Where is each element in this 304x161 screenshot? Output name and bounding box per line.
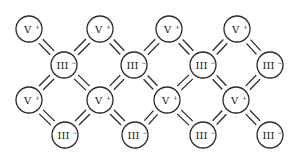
- atom-symbol: III: [263, 130, 275, 141]
- atom-symbol: III: [196, 130, 208, 141]
- atom-cation: V+: [224, 16, 250, 42]
- atom-charge: +: [35, 23, 40, 30]
- atom-symbol: III: [57, 60, 69, 71]
- double-bond: [179, 39, 194, 54]
- atom-symbol: V: [94, 24, 103, 35]
- atom-charge: +: [242, 94, 247, 101]
- atom-charge: +: [175, 23, 180, 30]
- bonds-layer: [39, 39, 261, 125]
- atom-anion: III−: [257, 52, 283, 78]
- atom-charge: +: [106, 23, 111, 30]
- atom-charge: +: [243, 23, 248, 30]
- atom-charge: +: [106, 94, 111, 101]
- atom-symbol: V: [94, 95, 103, 106]
- double-bond: [110, 39, 125, 54]
- atom-charge: −: [143, 129, 148, 136]
- double-bond: [144, 39, 159, 55]
- double-bond: [75, 110, 90, 125]
- crystal-lattice-diagram: V+V+V+V+III−III−III−III−V+V+V+V+III−III−…: [0, 0, 304, 161]
- atom-anion: III−: [121, 52, 147, 78]
- double-bond: [177, 75, 193, 90]
- atoms-layer: V+V+V+V+III−III−III−III−V+V+V+V+III−III−…: [16, 16, 283, 148]
- bond-line: [213, 79, 223, 89]
- atom-anion: III−: [257, 122, 283, 148]
- atom-charge: −: [278, 129, 283, 136]
- atom-symbol: III: [263, 60, 275, 71]
- double-bond: [213, 110, 227, 124]
- double-bond: [74, 75, 90, 90]
- atom-charge: −: [73, 129, 78, 136]
- atom-cation: V+: [16, 16, 42, 42]
- double-bond: [246, 110, 260, 125]
- double-bond: [144, 75, 158, 89]
- atom-cation: V+: [154, 87, 180, 113]
- atom-anion: III−: [52, 122, 78, 148]
- atom-symbol: III: [58, 130, 70, 141]
- double-bond: [39, 75, 54, 90]
- atom-symbol: V: [231, 24, 240, 35]
- atom-cation: V+: [156, 16, 182, 42]
- atom-charge: −: [278, 59, 283, 66]
- double-bond: [110, 75, 124, 90]
- atom-anion: III−: [122, 122, 148, 148]
- atom-symbol: V: [163, 24, 172, 35]
- atom-symbol: III: [128, 130, 140, 141]
- atom-symbol: V: [23, 95, 32, 106]
- atom-anion: III−: [51, 52, 77, 78]
- atom-symbol: V: [23, 24, 32, 35]
- double-bond: [246, 75, 260, 90]
- double-bond: [213, 75, 227, 89]
- double-bond: [39, 39, 54, 55]
- atom-anion: III−: [190, 122, 216, 148]
- bond-line: [149, 114, 158, 124]
- atom-charge: −: [142, 59, 147, 66]
- bond-line: [148, 75, 158, 85]
- atom-anion: III−: [190, 52, 216, 78]
- double-bond: [144, 111, 157, 125]
- atom-charge: +: [173, 94, 178, 101]
- atom-cation: V+: [87, 87, 113, 113]
- bond-line: [217, 114, 227, 124]
- double-bond: [110, 110, 125, 125]
- double-bond: [177, 110, 193, 125]
- double-bond: [74, 39, 90, 55]
- atom-cation: V+: [223, 87, 249, 113]
- double-bond: [39, 110, 55, 125]
- bond-line: [217, 75, 227, 85]
- atom-symbol: III: [196, 60, 208, 71]
- atom-charge: −: [72, 59, 77, 66]
- double-bond: [246, 40, 260, 55]
- atom-cation: V+: [87, 16, 113, 42]
- atom-symbol: III: [127, 60, 139, 71]
- atom-charge: −: [211, 59, 216, 66]
- atom-symbol: V: [230, 95, 239, 106]
- bond-line: [213, 110, 223, 120]
- bond-line: [144, 111, 153, 121]
- atom-symbol: V: [161, 95, 170, 106]
- atom-charge: −: [211, 129, 216, 136]
- atom-cation: V+: [16, 87, 42, 113]
- double-bond: [213, 39, 228, 54]
- bond-line: [144, 79, 154, 89]
- atom-charge: +: [35, 94, 40, 101]
